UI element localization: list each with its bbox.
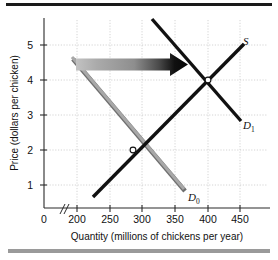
supply-demand-chart: 1 2 3 4 5 0 200 250 300 350 400 450 S D … — [0, 0, 278, 260]
y-tick-label-4: 4 — [27, 74, 33, 86]
x-tick-label-300: 300 — [133, 213, 151, 225]
curve-label-demand-new: D — [242, 119, 251, 131]
x-axis-title: Quantity (millions of chickens per year) — [71, 231, 243, 242]
x-tick-label-350: 350 — [166, 213, 184, 225]
curve-demand-original — [72, 57, 185, 191]
x-tick-label-250: 250 — [101, 213, 119, 225]
x-tick-label-400: 400 — [199, 213, 217, 225]
x-tick-label-0: 0 — [41, 213, 47, 225]
curve-label-demand-new-subscript: 1 — [251, 125, 255, 134]
y-tick-label-5: 5 — [27, 39, 33, 51]
x-tick-label-450: 450 — [231, 213, 249, 225]
curve-label-supply: S — [243, 35, 249, 47]
y-tick-label-3: 3 — [27, 109, 33, 121]
curve-label-demand-original: D — [187, 191, 196, 203]
curve-label-demand-original-group: D 0 — [187, 191, 200, 206]
equilibrium-marker-new — [205, 77, 211, 83]
y-axis-title: Price (dollars per chicken) — [9, 55, 20, 171]
y-tick-label-2: 2 — [27, 144, 33, 156]
y-tick-label-1: 1 — [27, 179, 33, 191]
y-tick-labels: 1 2 3 4 5 — [27, 39, 33, 191]
x-tick-label-200: 200 — [68, 213, 86, 225]
curve-label-demand-new-group: D 1 — [242, 119, 255, 134]
demand-shift-arrow — [76, 53, 188, 76]
curve-label-demand-original-subscript: 0 — [196, 197, 200, 206]
figure-panel: 1 2 3 4 5 0 200 250 300 350 400 450 S D … — [0, 0, 278, 260]
equilibrium-marker-original — [130, 147, 136, 153]
x-tick-labels: 0 200 250 300 350 400 450 — [41, 213, 249, 225]
